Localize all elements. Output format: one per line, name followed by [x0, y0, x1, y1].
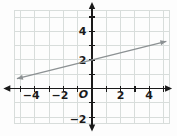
x-tick-label: −2: [51, 89, 68, 102]
graph-figure: −4−22442−2O: [0, 0, 177, 136]
y-axis-arrow-up: [89, 2, 95, 9]
x-axis-arrow-left: [3, 85, 10, 91]
y-tick-label: 4: [79, 25, 87, 38]
y-tick-label: −2: [70, 113, 87, 126]
x-tick-label: −4: [23, 89, 40, 102]
y-axis-arrow-down: [89, 124, 95, 131]
x-tick-label: 2: [117, 89, 125, 102]
y-tick-label: 2: [79, 54, 87, 67]
x-tick-label: 4: [145, 89, 153, 102]
origin-label: O: [79, 88, 88, 101]
coordinate-plane-chart: −4−22442−2O: [0, 0, 177, 136]
